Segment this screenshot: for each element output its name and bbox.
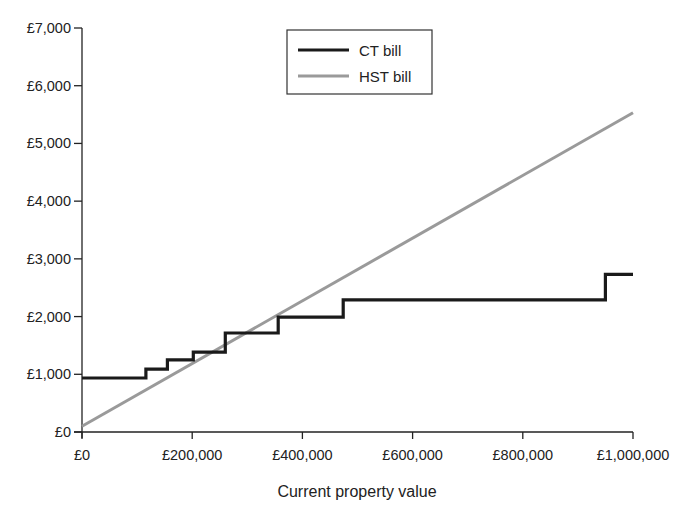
x-tick-label: £1,000,000 <box>597 447 670 463</box>
x-tick-label: £400,000 <box>272 447 332 463</box>
legend-label-hst: HST bill <box>359 68 411 85</box>
y-tick-label: £2,000 <box>27 309 71 325</box>
hst-bill-line <box>82 113 633 426</box>
y-tick-label: £4,000 <box>27 193 71 209</box>
x-tick-label: £800,000 <box>493 447 553 463</box>
series-layer <box>82 113 633 426</box>
ct-bill-line <box>82 274 633 378</box>
y-tick-label: £7,000 <box>27 20 71 36</box>
y-tick-label: £6,000 <box>27 78 71 94</box>
y-tick-label: £1,000 <box>27 366 71 382</box>
y-axis: £0£1,000£2,000£3,000£4,000£5,000£6,000£7… <box>27 20 82 440</box>
x-tick-label: £200,000 <box>162 447 222 463</box>
y-tick-label: £5,000 <box>27 135 71 151</box>
y-tick-label: £0 <box>55 424 71 440</box>
x-axis: £0£200,000£400,000£600,000£800,000£1,000… <box>74 432 669 463</box>
x-tick-label: £600,000 <box>382 447 442 463</box>
y-tick-label: £3,000 <box>27 251 71 267</box>
chart: £0£1,000£2,000£3,000£4,000£5,000£6,000£7… <box>0 0 687 505</box>
legend-label-ct: CT bill <box>359 42 401 59</box>
x-tick-label: £0 <box>74 447 90 463</box>
legend: CT bill HST bill <box>287 30 432 94</box>
x-axis-title: Current property value <box>277 483 436 500</box>
